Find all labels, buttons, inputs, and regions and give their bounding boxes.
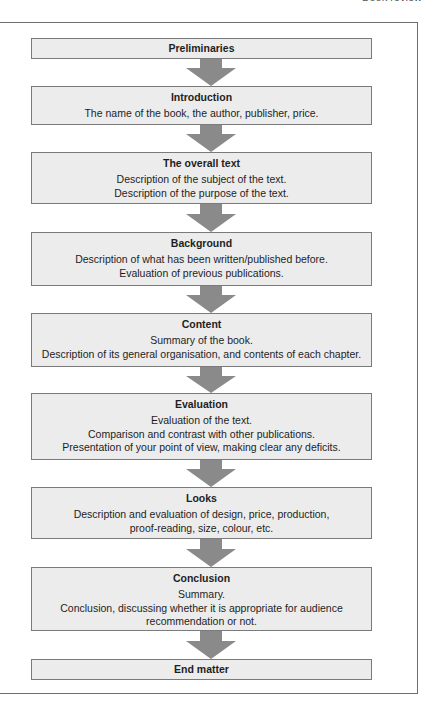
step-text: Summary of the book. — [32, 334, 371, 348]
step-end-matter: End matter — [31, 659, 372, 680]
step-title: Background — [32, 237, 371, 250]
step-text: Summary. — [32, 588, 371, 602]
down-arrow-icon — [185, 286, 237, 313]
step-title: Evaluation — [32, 398, 371, 411]
step-preliminaries: Preliminaries — [31, 38, 372, 59]
step-evaluation: Evaluation Evaluation of the text. Compa… — [31, 393, 372, 460]
step-text: Evaluation of the text. — [32, 414, 371, 428]
down-arrow-icon — [185, 539, 237, 567]
step-title: Conclusion — [32, 572, 371, 585]
down-arrow-icon — [185, 367, 237, 393]
step-title: The overall text — [32, 157, 371, 170]
step-text: Comparison and contrast with other publi… — [32, 428, 371, 442]
step-text: Description of what has been written/pub… — [32, 253, 371, 267]
step-content: Content Summary of the book. Description… — [31, 313, 372, 367]
step-text: recommendation or not. — [32, 615, 371, 629]
step-title: Content — [32, 318, 371, 331]
step-text: Description of the purpose of the text. — [32, 187, 371, 201]
down-arrow-icon — [185, 460, 237, 487]
step-title: Introduction — [32, 91, 371, 104]
step-looks: Looks Description and evaluation of desi… — [31, 487, 372, 539]
step-title: End matter — [174, 663, 229, 676]
step-text: The name of the book, the author, publis… — [32, 107, 371, 121]
step-background: Background Description of what has been … — [31, 232, 372, 286]
down-arrow-icon — [185, 204, 237, 232]
running-header: Book review — [362, 0, 422, 2]
step-text: Description and evaluation of design, pr… — [32, 508, 371, 522]
step-conclusion: Conclusion Summary. Conclusion, discussi… — [31, 567, 372, 631]
step-text: Evaluation of previous publications. — [32, 267, 371, 281]
step-text: Conclusion, discussing whether it is app… — [32, 602, 371, 616]
down-arrow-icon — [185, 631, 237, 659]
step-title: Preliminaries — [169, 42, 235, 55]
down-arrow-icon — [185, 125, 237, 152]
step-text: Description of the subject of the text. — [32, 173, 371, 187]
step-title: Looks — [32, 492, 371, 505]
step-introduction: Introduction The name of the book, the a… — [31, 86, 372, 125]
step-text: Description of its general organisation,… — [32, 348, 371, 362]
step-text: Presentation of your point of view, maki… — [32, 441, 371, 455]
step-text: proof-reading, size, colour, etc. — [32, 522, 371, 536]
down-arrow-icon — [185, 59, 237, 86]
step-overall-text: The overall text Description of the subj… — [31, 152, 372, 204]
